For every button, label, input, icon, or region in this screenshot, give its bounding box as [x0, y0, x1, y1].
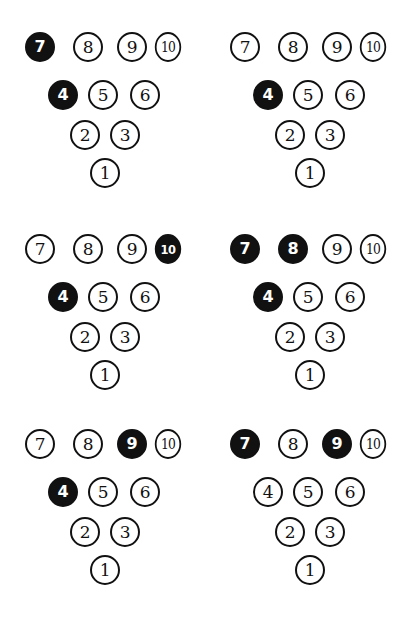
pin-4: 4 [48, 282, 78, 312]
pin-10: 10 [155, 32, 181, 62]
pin-4: 4 [253, 282, 283, 312]
pin-3: 3 [110, 517, 140, 547]
pin-2: 2 [70, 517, 100, 547]
pin-8: 8 [278, 234, 308, 264]
pin-2: 2 [275, 120, 305, 150]
pin-3: 3 [315, 517, 345, 547]
pin-5: 5 [88, 80, 118, 110]
pin-deck-panel: 7 8 9 10 4 5 6 2 3 1 [205, 397, 410, 599]
pin-3: 3 [110, 322, 140, 352]
pin-10: 10 [155, 234, 181, 264]
pin-1: 1 [90, 360, 120, 390]
pin-7: 7 [25, 429, 55, 459]
pin-4: 4 [48, 80, 78, 110]
pin-7: 7 [25, 234, 55, 264]
pin-3: 3 [110, 120, 140, 150]
pin-4: 4 [253, 477, 283, 507]
pin-deck-panel: 7 8 9 10 4 5 6 2 3 1 [205, 202, 410, 404]
pin-1: 1 [295, 360, 325, 390]
pin-8: 8 [73, 429, 103, 459]
pin-9: 9 [117, 32, 147, 62]
pin-3: 3 [315, 322, 345, 352]
pin-10: 10 [155, 429, 181, 459]
pin-6: 6 [335, 282, 365, 312]
pin-10: 10 [360, 234, 386, 264]
pin-deck-panel: 7 8 9 10 4 5 6 2 3 1 [0, 397, 205, 599]
pin-6: 6 [130, 282, 160, 312]
pin-9: 9 [322, 429, 352, 459]
pin-9: 9 [117, 234, 147, 264]
pin-7: 7 [230, 32, 260, 62]
pin-9: 9 [117, 429, 147, 459]
pin-6: 6 [335, 80, 365, 110]
pin-1: 1 [90, 158, 120, 188]
pin-6: 6 [335, 477, 365, 507]
pin-8: 8 [73, 234, 103, 264]
pin-5: 5 [293, 80, 323, 110]
pin-10: 10 [360, 429, 386, 459]
pin-deck-panel: 7 8 9 10 4 5 6 2 3 1 [0, 0, 205, 202]
pin-10: 10 [360, 32, 386, 62]
pin-configuration-figure: 7 8 9 10 4 5 6 2 3 1 7 8 9 10 4 5 6 2 3 … [0, 0, 410, 617]
pin-6: 6 [130, 80, 160, 110]
pin-8: 8 [73, 32, 103, 62]
pin-8: 8 [278, 429, 308, 459]
pin-1: 1 [295, 555, 325, 585]
pin-2: 2 [70, 120, 100, 150]
pin-5: 5 [88, 282, 118, 312]
pin-3: 3 [315, 120, 345, 150]
pin-5: 5 [293, 282, 323, 312]
pin-6: 6 [130, 477, 160, 507]
pin-deck-panel: 7 8 9 10 4 5 6 2 3 1 [0, 202, 205, 404]
pin-7: 7 [25, 32, 55, 62]
pin-7: 7 [230, 429, 260, 459]
pin-5: 5 [88, 477, 118, 507]
pin-4: 4 [253, 80, 283, 110]
pin-2: 2 [275, 322, 305, 352]
pin-1: 1 [295, 158, 325, 188]
pin-9: 9 [322, 234, 352, 264]
pin-2: 2 [70, 322, 100, 352]
pin-9: 9 [322, 32, 352, 62]
pin-1: 1 [90, 555, 120, 585]
pin-7: 7 [230, 234, 260, 264]
pin-5: 5 [293, 477, 323, 507]
pin-deck-panel: 7 8 9 10 4 5 6 2 3 1 [205, 0, 410, 202]
pin-8: 8 [278, 32, 308, 62]
pin-2: 2 [275, 517, 305, 547]
pin-4: 4 [48, 477, 78, 507]
